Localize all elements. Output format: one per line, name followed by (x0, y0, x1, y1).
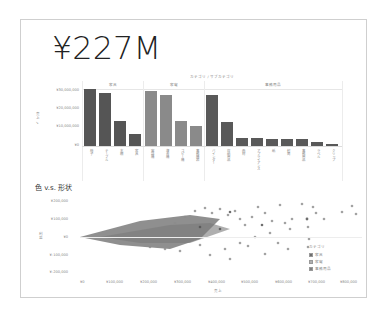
subcat-label: アプライアンス (254, 149, 260, 173)
pane-header-electronics[interactable]: 家電 (143, 81, 204, 90)
subcat-label: 事務用品 (299, 149, 305, 165)
bar-art[interactable] (236, 138, 248, 146)
subcat-label: 家具 (132, 149, 138, 161)
subcat-label: テーブル (102, 149, 108, 163)
pane-divider (143, 81, 144, 181)
scatter-x-tick: ¥100,000 (106, 280, 123, 284)
legend-label: 家電 (315, 259, 323, 264)
pane-divider (204, 81, 205, 181)
bar-fasteners[interactable] (326, 144, 338, 146)
subcat-label: ラベル (314, 149, 320, 163)
legend-item-office[interactable]: 事務用品 (309, 265, 331, 272)
scatter-x-tick: ¥200,000 (140, 280, 157, 284)
subcat-label: 紙 (269, 149, 275, 159)
subcat-label: クリップ (329, 149, 335, 163)
bar-furnishings[interactable] (129, 134, 141, 146)
total-sales-kpi: ¥227M (52, 30, 161, 66)
bar-baseline (82, 146, 342, 147)
pane-divider (342, 81, 343, 181)
subcat-label: 封筒 (284, 149, 290, 159)
bar-phones[interactable] (145, 91, 157, 146)
legend-swatch-icon (309, 253, 313, 257)
scatter-y-tick: ¥-200,000 (34, 270, 68, 274)
bar-y-tick: ¥0 (45, 143, 79, 147)
bar-chairs[interactable] (84, 89, 96, 146)
scatter-y-tick: ¥200,000 (34, 199, 68, 203)
bar-appliances[interactable] (251, 138, 263, 146)
pane-divider (82, 81, 83, 181)
bar-supplies[interactable] (296, 139, 308, 146)
bar-binders[interactable] (206, 95, 218, 146)
legend-swatch-icon (309, 260, 313, 264)
scatter-y-tick: ¥-100,000 (34, 253, 68, 257)
subcat-label: バインダー (209, 149, 215, 177)
pane-header-office[interactable]: 事務用品 (204, 81, 342, 90)
subcat-label: コピー機 (178, 149, 184, 167)
bar-chart-super-header: カテゴリ / サブカテゴリ (82, 74, 342, 79)
legend-label: 事務用品 (315, 266, 331, 271)
bar-tables[interactable] (99, 93, 111, 146)
scatter-zero-line (80, 237, 362, 238)
bar-machines[interactable] (160, 95, 172, 146)
bar-y-tick: ¥10,000,000 (45, 124, 79, 128)
subcat-label: 事務機器 (193, 149, 199, 167)
bar-bookcases[interactable] (114, 121, 126, 146)
bar-y-tick: ¥30,000,000 (45, 88, 79, 92)
subcat-label: 本棚 (117, 149, 123, 161)
scatter-title: 色 v.s. 形状 (35, 182, 72, 192)
scatter-legend: カテゴリ 家具 家電 事務用品 (309, 244, 331, 272)
scatter-x-axis-title: 売上 (214, 288, 222, 293)
subcat-label: 収納用品 (224, 149, 230, 167)
bar-envelopes[interactable] (281, 139, 293, 146)
bar-copiers[interactable] (175, 121, 187, 146)
scatter-y-tick: ¥100,000 (34, 217, 68, 221)
scatter-x-tick: ¥0 (80, 280, 85, 284)
scatter-x-tick: ¥600,000 (275, 280, 292, 284)
bar-storage[interactable] (221, 122, 233, 146)
scatter-x-tick: ¥700,000 (308, 280, 325, 284)
legend-label: 家具 (315, 252, 323, 257)
subcat-label: 画材 (239, 149, 245, 161)
legend-swatch-icon (309, 267, 313, 271)
subcat-label: 複合機 (163, 149, 169, 163)
subcat-label: 電話機 (148, 149, 154, 163)
scatter-x-tick: ¥500,000 (241, 280, 258, 284)
bar-paper[interactable] (266, 139, 278, 146)
subcat-label: 椅子 (87, 149, 93, 161)
bar-y-tick: ¥20,000,000 (45, 106, 79, 110)
scatter-x-tick: ¥800,000 (340, 280, 357, 284)
bar-labels[interactable] (311, 142, 323, 146)
legend-item-electronics[interactable]: 家電 (309, 258, 331, 265)
bar-y-axis-title: 売上 ↗ (35, 112, 40, 124)
bar-accessories[interactable] (190, 126, 202, 146)
scatter-y-tick: ¥0 (34, 235, 68, 239)
scatter-x-tick: ¥400,000 (208, 280, 225, 284)
legend-title: カテゴリ (309, 244, 331, 249)
legend-item-furniture[interactable]: 家具 (309, 251, 331, 258)
scatter-x-tick: ¥300,000 (174, 280, 191, 284)
